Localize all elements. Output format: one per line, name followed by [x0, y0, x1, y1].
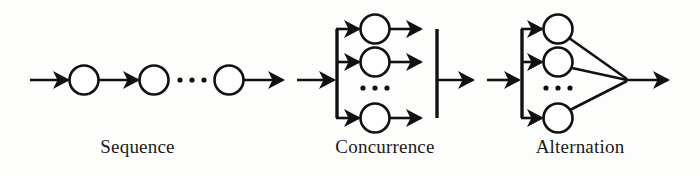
alternation-arrow-out	[626, 71, 670, 89]
concurrence-arrow-in	[297, 71, 336, 89]
ellipsis-icon	[360, 85, 389, 90]
sequence-arrow-in	[30, 71, 70, 89]
circle-node-icon	[544, 104, 573, 133]
circle-node-icon	[361, 15, 390, 44]
circle-node-icon	[544, 48, 573, 77]
circle-node-icon	[361, 104, 390, 133]
sequence-arrow-1	[99, 71, 140, 89]
panel-concurrence	[297, 15, 475, 133]
ellipsis-icon	[543, 85, 572, 90]
panel-alternation	[487, 15, 670, 133]
caption-sequence: Sequence	[0, 136, 275, 158]
circle-node-icon	[70, 66, 99, 95]
alternation-arrow-in	[487, 71, 521, 89]
circle-node-icon	[140, 66, 169, 95]
circle-node-icon	[361, 48, 390, 77]
alternation-branch-3	[521, 81, 627, 133]
concurrence-branch-3	[336, 104, 423, 133]
circle-node-icon	[544, 15, 573, 44]
caption-concurrence: Concurrence	[285, 136, 485, 158]
alternation-branch-2	[521, 48, 627, 81]
concurrence-branch-2	[336, 48, 423, 77]
panel-sequence	[30, 66, 285, 95]
concurrence-branch-1	[336, 15, 423, 44]
sequence-arrow-out	[244, 71, 285, 89]
caption-alternation: Alternation	[480, 136, 680, 158]
workflow-patterns-figure: Sequence Concurrence Alternation	[0, 0, 700, 176]
ellipsis-icon	[177, 77, 206, 82]
circle-node-icon	[215, 66, 244, 95]
concurrence-arrow-out	[437, 71, 475, 89]
